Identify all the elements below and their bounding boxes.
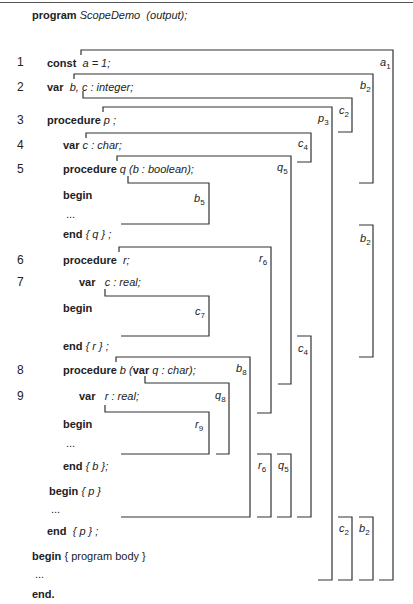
scope-label-r9: r9: [195, 418, 203, 435]
keyword: end: [63, 460, 83, 472]
keyword: var: [79, 276, 96, 288]
label-sub: 4: [304, 143, 308, 152]
code-line-7: var c : real;: [79, 276, 141, 289]
line-number: 9: [17, 390, 24, 403]
scope-c7: [105, 289, 209, 336]
label-sub: 5: [284, 465, 288, 474]
code-text: { r } ;: [86, 340, 109, 352]
b-dots: ...: [66, 437, 75, 450]
label-sub: 2: [365, 528, 369, 537]
main-dots: ...: [35, 568, 44, 581]
line-number: 8: [17, 364, 24, 377]
scope-q5-top: [117, 156, 291, 384]
keyword: var: [133, 364, 150, 376]
scope-label-c4-mid: c4: [298, 342, 308, 359]
scope-label-p3: p3: [318, 112, 329, 129]
scope-label-b5: b5: [194, 192, 205, 209]
program-header: program ScopeDemo (output);: [32, 9, 187, 22]
scope-label-c2-top: c2: [339, 104, 349, 121]
label-sub: 4: [304, 348, 308, 357]
code-text: r : real;: [105, 390, 139, 402]
keyword: end: [63, 340, 83, 352]
keyword: procedure: [47, 114, 101, 126]
keyword: begin: [32, 550, 61, 562]
label-sub: 8: [221, 395, 225, 404]
program-params: (output);: [146, 9, 187, 21]
b-begin: begin: [63, 418, 92, 431]
code-line-4: var c : char;: [63, 139, 122, 152]
keyword: procedure: [63, 254, 117, 266]
label-sub: 9: [199, 424, 203, 433]
label-sub: 3: [324, 118, 328, 127]
label-sub: 2: [366, 238, 370, 247]
scope-label-q5-top: q5: [277, 161, 288, 178]
keyword: var: [79, 390, 96, 402]
line-number: 4: [17, 139, 24, 152]
label-sub: 5: [283, 167, 287, 176]
line-number: 7: [17, 276, 24, 289]
code-text: { q } ;: [86, 228, 112, 240]
scope-label-q5-low: q5: [278, 459, 289, 476]
scope-label-b2-top: b2: [360, 79, 371, 96]
line-number: 6: [17, 254, 24, 267]
keyword: procedure: [63, 163, 117, 175]
scope-label-b2-low: b2: [359, 522, 370, 539]
code-line-3: procedure p ;: [47, 114, 116, 127]
scope-label-c7: c7: [195, 305, 205, 322]
main-end: end.: [32, 588, 55, 601]
code-line-5: procedure q (b : boolean);: [63, 163, 194, 176]
line-number: 5: [17, 163, 24, 176]
q-end: end { q } ;: [63, 228, 111, 241]
r-end: end { r } ;: [63, 340, 109, 353]
scope-c4-mid: [297, 336, 311, 517]
r-begin: begin: [63, 302, 92, 315]
code-line-2: var b, c : integer;: [47, 81, 133, 94]
scope-label-b8: b8: [236, 362, 247, 379]
p-dots: ...: [51, 503, 60, 516]
scope-b8: [116, 357, 250, 517]
scope-a1: [81, 50, 393, 580]
label-sub: 8: [242, 368, 246, 377]
q-dots: ...: [66, 208, 75, 221]
code-text: p ;: [104, 114, 116, 126]
code-line-1: const a = 1;: [47, 57, 110, 70]
scope-label-c2-low: c2: [339, 522, 349, 539]
scope-label-r6-low: r6: [258, 459, 266, 476]
code-text: c : real;: [105, 276, 141, 288]
scope-label-a1: a1: [380, 56, 391, 73]
code-text: { b };: [86, 460, 109, 472]
keyword: end: [47, 525, 67, 537]
code-line-6: procedure r;: [63, 254, 130, 267]
p-begin: begin { p }: [49, 485, 101, 498]
program-keyword: program: [32, 9, 77, 21]
label-sub: 2: [345, 528, 349, 537]
line-number: 3: [17, 114, 24, 127]
keyword: var: [63, 139, 80, 151]
scope-r6-top: [119, 247, 271, 413]
code-comment: { program body }: [64, 550, 145, 562]
label-sub: 7: [201, 311, 205, 320]
code-text: q : char);: [152, 364, 195, 376]
program-name: ScopeDemo: [80, 9, 141, 21]
label-sub: 6: [263, 258, 267, 267]
main-begin: begin { program body }: [32, 550, 146, 563]
keyword: const: [47, 57, 76, 69]
label-sub: 1: [386, 62, 390, 71]
scope-r9: [105, 405, 209, 454]
code-text: { p } ;: [73, 525, 99, 537]
keyword: end: [63, 228, 83, 240]
scope-q8: [145, 376, 229, 454]
scope-label-q8: q8: [215, 389, 226, 406]
line-number: 1: [17, 56, 24, 69]
code-text: c : char;: [83, 139, 122, 151]
scope-c2-top: [83, 91, 352, 132]
p-end: end { p } ;: [47, 525, 98, 538]
label-sub: 6: [262, 465, 266, 474]
code-text: b (: [120, 364, 133, 376]
label-sub: 2: [345, 110, 349, 119]
b-end: end { b };: [63, 460, 108, 473]
code-text: a = 1;: [82, 57, 110, 69]
code-line-8: procedure b (var q : char);: [63, 364, 196, 377]
q-begin: begin: [63, 189, 92, 202]
keyword: begin: [49, 485, 78, 497]
